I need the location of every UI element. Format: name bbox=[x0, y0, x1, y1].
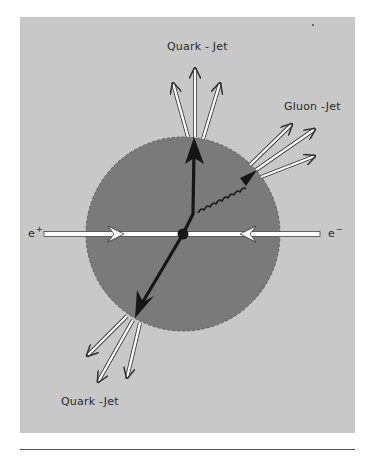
label-positron: e+ bbox=[28, 227, 43, 240]
interaction-vertex bbox=[178, 229, 189, 240]
positron-charge: + bbox=[36, 225, 43, 234]
speck bbox=[312, 24, 314, 26]
label-quark-jet-bottom: Quark -Jet bbox=[61, 395, 119, 408]
label-gluon-jet: Gluon -Jet bbox=[284, 100, 341, 113]
three-jet-event-diagram bbox=[0, 0, 373, 458]
electron-symbol: e bbox=[328, 227, 335, 240]
label-quark-jet-top: Quark - Jet bbox=[167, 40, 228, 53]
electron-charge: − bbox=[336, 225, 343, 234]
label-electron: e− bbox=[328, 227, 343, 240]
page-divider bbox=[20, 449, 355, 450]
positron-symbol: e bbox=[28, 227, 35, 240]
